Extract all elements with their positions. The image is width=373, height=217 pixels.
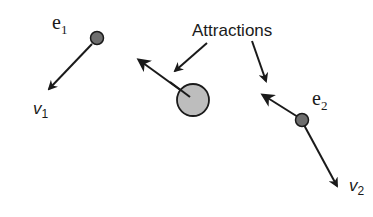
entity-e2-label: e2 [312,87,327,113]
entity-e1: e1 v1 [33,11,104,121]
attractor-circle [177,84,209,116]
entity-e1-label: e1 [52,11,67,37]
callout-arrow-left [175,43,207,71]
velocity-arrow-v1 [49,44,92,89]
attractor [139,60,209,116]
attractions-label: Attractions [192,21,272,40]
diagram-canvas: e1 v1 Attractions e2 v2 [0,0,373,217]
attraction-arrow-e2 [263,95,298,117]
attractions-callout: Attractions [175,21,272,81]
entity-e1-dot [91,32,104,45]
entity-e2: e2 v2 [263,87,365,198]
callout-arrow-right [252,41,266,81]
velocity-arrow-v2 [304,125,337,186]
velocity-v2-label: v2 [349,176,365,198]
velocity-v1-label: v1 [33,99,49,121]
attraction-diagram: e1 v1 Attractions e2 v2 [0,0,373,217]
entity-e2-dot [296,114,309,127]
